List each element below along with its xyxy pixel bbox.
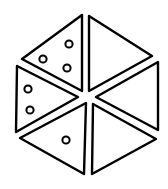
dot [62, 136, 69, 143]
dot [26, 106, 33, 113]
dot [63, 64, 70, 71]
dot [24, 85, 31, 92]
dot [65, 40, 72, 47]
hexagon-diagram [0, 0, 168, 189]
dot [39, 55, 46, 62]
